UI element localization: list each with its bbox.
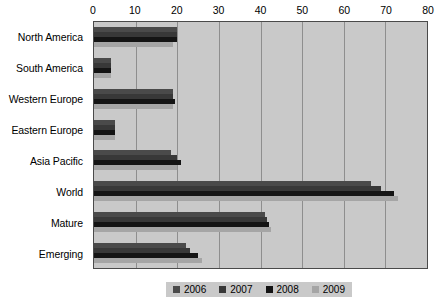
bar-2009 [94,135,115,140]
category-label: World [0,176,88,207]
bar-2009 [94,104,173,109]
legend-item[interactable]: 2008 [266,284,299,295]
x-tick-label: 50 [297,4,309,16]
bar-2009 [94,196,398,201]
category-label: Eastern Europe [0,114,88,145]
bar-group [94,176,427,207]
bar-row [94,42,427,47]
legend-swatch-icon [173,286,180,293]
category-label: Emerging [0,238,88,269]
bar-row [94,165,427,170]
legend-label: 2007 [230,284,252,295]
legend-item[interactable]: 2007 [219,284,252,295]
legend-label: 2006 [184,284,206,295]
chart-legend: 2006200720082009 [166,282,352,297]
category-label: South America [0,52,88,83]
bar-groups [94,22,427,268]
bar-group [94,237,427,268]
x-tick-label: 30 [213,4,225,16]
legend-swatch-icon [312,286,319,293]
legend-label: 2009 [323,284,345,295]
bar-group [94,53,427,84]
bar-row [94,258,427,263]
bar-group [94,84,427,115]
legend-swatch-icon [266,286,273,293]
category-label: Mature [0,207,88,238]
legend-item[interactable]: 2006 [173,284,206,295]
bar-2009 [94,42,173,47]
bar-row [94,196,427,201]
legend-swatch-icon [219,286,226,293]
bar-2009 [94,73,111,78]
bar-2009 [94,258,202,263]
x-axis: 01020304050607080 [93,4,428,19]
bar-group [94,114,427,145]
bar-row [94,135,427,140]
x-tick-label: 40 [255,4,267,16]
x-tick-label: 70 [380,4,392,16]
category-label: Western Europe [0,83,88,114]
bar-row [94,73,427,78]
x-tick-label: 20 [171,4,183,16]
legend-item[interactable]: 2009 [312,284,345,295]
y-axis: North AmericaSouth AmericaWestern Europe… [0,21,88,269]
plot-area [93,21,428,269]
category-label: North America [0,21,88,52]
bar-row [94,227,427,232]
bar-group [94,145,427,176]
category-label: Asia Pacific [0,145,88,176]
bar-2009 [94,165,177,170]
legend-label: 2008 [277,284,299,295]
bar-2009 [94,227,271,232]
x-tick-label: 0 [90,4,96,16]
x-tick-label: 10 [129,4,141,16]
x-tick-label: 60 [338,4,350,16]
bar-chart: the path to protectthe countries thatsom… [0,0,440,305]
bar-group [94,22,427,53]
x-tick-label: 80 [422,4,434,16]
bar-group [94,207,427,238]
bar-row [94,104,427,109]
